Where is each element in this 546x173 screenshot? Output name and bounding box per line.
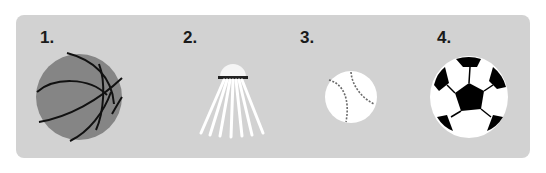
baseball-icon [324,70,378,124]
soccer-ball-icon [429,55,509,139]
item-3-label: 3. [300,28,314,48]
item-1-label: 1. [40,28,54,48]
item-2-label: 2. [183,28,197,48]
shuttlecock-icon [198,55,268,140]
basketball-icon [34,52,124,142]
item-4-label: 4. [437,28,451,48]
